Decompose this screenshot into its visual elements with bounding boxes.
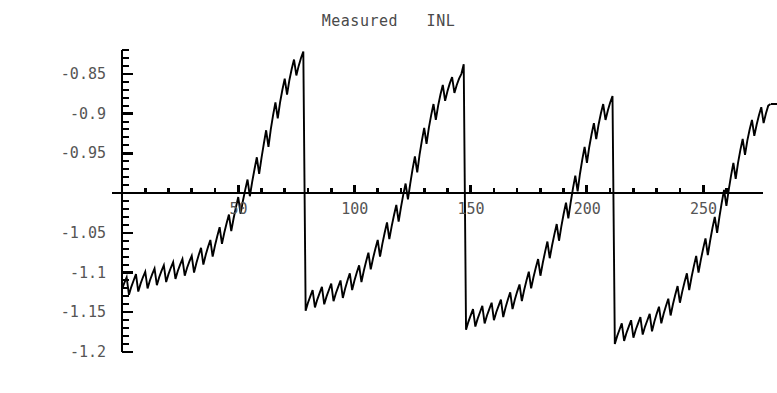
x-tick-label: 150 [457, 200, 484, 218]
x-tick-label: 250 [690, 200, 717, 218]
y-tick-label: -1.15 [0, 303, 106, 321]
y-tick-label: -0.85 [0, 65, 106, 83]
y-tick-label: -0.95 [0, 144, 106, 162]
inl-plot-area [0, 0, 777, 393]
y-tick-label: -0.9 [0, 105, 106, 123]
y-tick-label: -1.1 [0, 264, 106, 282]
y-tick-label: -1.05 [0, 224, 106, 242]
data-line-group [122, 52, 777, 344]
x-tick-label: 50 [229, 200, 247, 218]
x-tick-label: 200 [574, 200, 601, 218]
inl-trace [122, 52, 771, 344]
y-tick-label: -1.2 [0, 343, 106, 361]
inl-chart-figure: Measured INL -0.85-0.9-0.95-1.05-1.1-1.1… [0, 0, 777, 393]
x-tick-label: 100 [341, 200, 368, 218]
tick-marks-group [122, 50, 726, 352]
